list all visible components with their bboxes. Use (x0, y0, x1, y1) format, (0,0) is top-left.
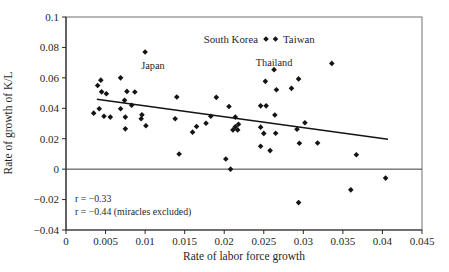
axis-ticks (62, 17, 422, 234)
data-point (124, 89, 130, 95)
data-point (261, 131, 267, 137)
correlation-annotation: r = −0.33 (75, 193, 111, 204)
data-point (383, 175, 389, 181)
data-point (194, 124, 200, 130)
data-point (297, 140, 303, 146)
x-tick-label: 0.035 (331, 235, 356, 247)
point-labels: JapanThailand (141, 57, 293, 71)
data-point (258, 124, 264, 130)
data-point (118, 75, 124, 81)
data-points (91, 49, 389, 205)
data-point (101, 113, 107, 119)
y-tick-label: 0.06 (40, 72, 60, 84)
data-point (315, 140, 321, 146)
data-point (267, 148, 273, 154)
point-label: Japan (141, 60, 164, 71)
y-tick-label: 0.08 (40, 41, 60, 53)
data-point (104, 91, 110, 97)
y-tick-label: 0.02 (40, 133, 59, 145)
correlation-annotation: r = −0.44 (miracles excluded) (75, 206, 191, 218)
data-point (172, 116, 178, 122)
x-tick-label: 0.045 (410, 235, 435, 247)
x-tick-label: 0.005 (93, 235, 118, 247)
x-tick-label: 0.03 (294, 235, 314, 247)
data-point (329, 61, 335, 67)
data-point (289, 86, 295, 92)
data-point (302, 120, 308, 126)
data-point (226, 104, 232, 110)
data-point (228, 166, 234, 172)
data-point (348, 187, 354, 193)
x-tick-label: 0 (63, 235, 69, 247)
annotations: r = −0.33r = −0.44 (miracles excluded) (75, 193, 191, 218)
data-point (99, 89, 105, 95)
y-tick-label: 0.04 (40, 102, 60, 114)
x-tick-label: 0.04 (373, 235, 393, 247)
data-point (214, 95, 220, 101)
legend: South KoreaTaiwan (204, 33, 316, 45)
data-point (263, 79, 269, 85)
x-tick-label: 0.02 (215, 235, 234, 247)
point-label: Thailand (256, 57, 293, 68)
plot-border (66, 17, 422, 230)
x-tick-label: 0.015 (172, 235, 197, 247)
y-tick-label: −0.02 (34, 193, 59, 205)
legend-marker-south-korea-icon (263, 36, 269, 42)
data-point (95, 83, 101, 89)
data-point (263, 103, 269, 109)
y-tick-label: 0 (54, 163, 60, 175)
x-tick-label: 0.01 (135, 235, 154, 247)
data-point (123, 114, 129, 120)
data-point (258, 144, 264, 150)
data-point (354, 152, 360, 158)
data-point (274, 87, 280, 93)
y-axis-title: Rate of growth of K/L (2, 72, 15, 175)
data-point (272, 112, 278, 118)
data-point (118, 106, 124, 112)
data-point (123, 126, 129, 132)
data-point (190, 129, 196, 135)
legend-marker-taiwan-icon (273, 36, 279, 42)
legend-label-south-korea: South Korea (204, 33, 258, 45)
plot-frame (66, 17, 422, 230)
data-point (96, 106, 102, 112)
data-point (203, 120, 209, 126)
scatter-figure: 0.10.080.060.040.020−0.02−0.0400.0050.01… (0, 0, 449, 272)
data-point (223, 156, 229, 162)
x-axis-title: Rate of labor force growth (183, 250, 305, 263)
x-tick-label: 0.025 (251, 235, 276, 247)
y-tick-label: −0.04 (34, 224, 60, 236)
data-point (174, 94, 180, 100)
data-point (108, 114, 114, 120)
data-point (143, 123, 149, 129)
data-point (91, 110, 97, 116)
data-point (138, 116, 144, 122)
y-tick-label: 0.1 (45, 11, 59, 23)
data-point (296, 200, 302, 206)
data-point (142, 49, 148, 55)
data-point (296, 76, 302, 82)
scatter-chart: 0.10.080.060.040.020−0.02−0.0400.0050.01… (0, 0, 449, 272)
legend-label-taiwan: Taiwan (283, 33, 315, 45)
data-point (98, 77, 104, 83)
data-point (273, 130, 279, 136)
data-point (176, 151, 182, 157)
data-point (258, 103, 264, 109)
data-point (132, 89, 138, 95)
